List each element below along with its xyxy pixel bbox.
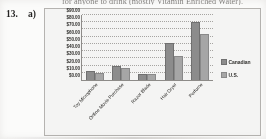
chart-container: $0.00$10.00$20.00$30.00$40.00$50.00$60.0…	[44, 8, 261, 136]
worksheet-page: for anyone to drink (mostly Vitamin Enri…	[0, 0, 266, 139]
bar-groups	[82, 15, 213, 80]
bar-group	[165, 15, 183, 80]
bar	[121, 68, 130, 80]
question-part-label: a)	[28, 9, 36, 19]
bar-group	[112, 15, 130, 80]
legend-item: Canadian	[221, 59, 251, 65]
legend-label: U.S.	[229, 72, 239, 78]
y-axis-tick-label: $10.00	[67, 65, 80, 70]
y-axis-tick-label: $80.00	[67, 15, 80, 20]
y-axis-tick-label: $0.00	[69, 73, 80, 78]
bar	[165, 43, 174, 80]
y-axis-tick-label: $90.00	[67, 8, 80, 13]
chart-legend: CanadianU.S.	[221, 59, 251, 78]
legend-item: U.S.	[221, 72, 251, 78]
plot-area: $0.00$10.00$20.00$30.00$40.00$50.00$60.0…	[81, 15, 213, 81]
bar	[174, 56, 183, 80]
bar	[138, 74, 147, 81]
y-axis-tick-label: $40.00	[67, 44, 80, 49]
bar-group	[191, 15, 209, 80]
y-axis-tick-label: $70.00	[67, 22, 80, 27]
legend-swatch-icon	[221, 72, 227, 78]
bar-group	[138, 15, 156, 80]
x-axis-category-label: Toy Microphone	[72, 82, 98, 110]
bar	[86, 71, 95, 80]
x-axis-category-label: Hair Dryer	[159, 82, 177, 101]
bar-group	[86, 15, 104, 80]
y-axis-tick-label: $30.00	[67, 51, 80, 56]
question-number: 13.	[6, 9, 18, 19]
bar	[200, 34, 209, 80]
page-bottom-rule	[0, 137, 266, 139]
y-axis-tick-label: $20.00	[67, 58, 80, 63]
bar	[112, 66, 121, 80]
y-axis-tick-label: $50.00	[67, 36, 80, 41]
y-axis-tick-label: $60.00	[67, 29, 80, 34]
bar	[95, 73, 104, 80]
x-axis-category-label: Perfume	[188, 82, 204, 98]
x-axis-category-label: Razor Blade	[130, 82, 151, 104]
legend-swatch-icon	[221, 59, 227, 65]
bar	[191, 22, 200, 80]
cut-off-body-text: for anyone to drink (mostly Vitamin Enri…	[62, 0, 266, 5]
legend-label: Canadian	[229, 59, 251, 65]
bar	[147, 74, 156, 80]
